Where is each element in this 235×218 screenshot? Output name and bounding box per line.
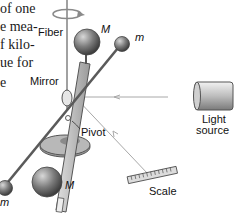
large-mass-bottom xyxy=(32,167,62,197)
small-mass-bottom-label: m xyxy=(0,197,9,208)
fiber-label: Fiber xyxy=(38,27,63,38)
scale-label: Scale xyxy=(149,186,177,197)
rotation-arrow-icon xyxy=(53,10,85,19)
large-mass-top xyxy=(74,29,100,55)
body-text-line-2: e mea- xyxy=(0,20,38,34)
small-mass-top xyxy=(115,37,130,52)
body-text-line-5: e xyxy=(0,76,6,90)
cavendish-torsion-balance-diagram: of one e mea- f kilo- ue for e Fiber M m… xyxy=(0,0,235,218)
large-mass-bottom-label: M xyxy=(65,180,74,191)
small-mass-bottom xyxy=(0,181,13,196)
body-text-line-4: ue for xyxy=(0,56,33,70)
body-text-line-1: of one xyxy=(0,2,35,16)
pivot-label: Pivot xyxy=(81,127,105,138)
scale-ruler-icon xyxy=(127,166,177,183)
mirror-disk xyxy=(62,90,72,106)
mirror-label: Mirror xyxy=(30,76,59,87)
light-source-label-line2: source xyxy=(196,125,229,136)
body-text-line-3: f kilo- xyxy=(0,38,35,52)
large-mass-top-label: M xyxy=(101,24,110,35)
small-mass-top-label: m xyxy=(135,32,144,43)
light-source-icon xyxy=(194,82,234,110)
